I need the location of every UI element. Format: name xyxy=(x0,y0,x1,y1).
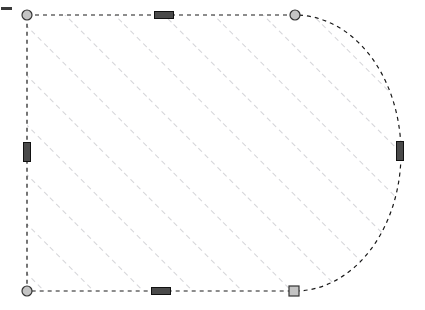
left-edge-tick xyxy=(1,7,12,10)
hatch-fill-group xyxy=(0,0,425,310)
grip-top-mid[interactable] xyxy=(155,12,174,19)
grip-left-mid[interactable] xyxy=(24,143,31,162)
grip-bottom-left[interactable] xyxy=(22,286,32,296)
grip-bottom-mid[interactable] xyxy=(152,288,171,295)
grip-arc-mid[interactable] xyxy=(397,142,404,161)
grip-bottom-right[interactable] xyxy=(289,286,299,296)
drawing-canvas[interactable] xyxy=(0,0,425,310)
grip-top-right[interactable] xyxy=(290,10,300,20)
grip-top-left[interactable] xyxy=(22,10,32,20)
hatch-fill xyxy=(0,0,425,310)
shape-drawing-surface[interactable] xyxy=(0,0,425,310)
